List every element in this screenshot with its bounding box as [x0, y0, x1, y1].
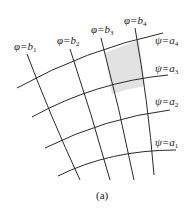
- phi-line-b2: [70, 49, 110, 180]
- psi-curve-a1: [58, 150, 176, 176]
- label-psi-a1: ψ=a1: [155, 137, 178, 150]
- shaded-cell: [105, 40, 145, 94]
- label-psi-a4: ψ=a4: [155, 35, 178, 48]
- label-phi-b4: φ=b4: [124, 15, 147, 28]
- label-phi-b3: φ=b3: [91, 24, 114, 37]
- label-phi-b2: φ=b2: [57, 35, 80, 48]
- label-phi-b1: φ=b1: [14, 41, 37, 54]
- label-psi-a3: ψ=a3: [155, 63, 178, 76]
- phi-line-b1: [27, 54, 80, 180]
- label-psi-a2: ψ=a2: [155, 96, 178, 109]
- figure-caption: (a): [96, 190, 108, 201]
